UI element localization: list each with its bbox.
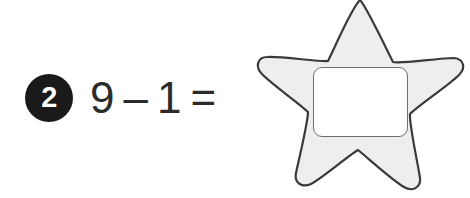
problem-number-label: 2 bbox=[41, 83, 57, 112]
answer-input-box[interactable] bbox=[313, 67, 408, 137]
right-operand: 1 bbox=[157, 76, 181, 120]
left-operand: 9 bbox=[90, 76, 114, 120]
equals-operator: = bbox=[190, 76, 216, 120]
problem-number-badge: 2 bbox=[25, 74, 73, 122]
equation: 9 – 1 = bbox=[90, 70, 216, 126]
worksheet-problem-item: 2 9 – 1 = bbox=[0, 0, 470, 198]
minus-operator: – bbox=[123, 76, 147, 120]
answer-star-graphic bbox=[250, 0, 470, 198]
